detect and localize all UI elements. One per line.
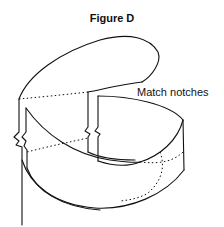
hidden-edge-back xyxy=(140,152,183,163)
left-inner-edge xyxy=(22,108,27,168)
paper-crown-diagram xyxy=(0,0,224,227)
right-band-edge xyxy=(183,120,184,170)
center-notched-edge xyxy=(85,92,90,152)
center-notched-edge-2 xyxy=(95,96,100,161)
inner-wall-top xyxy=(98,96,183,120)
upper-rim xyxy=(88,82,142,92)
hidden-edge-top xyxy=(19,92,88,99)
outer-bottom-band xyxy=(22,160,184,208)
outer-bottom-band-2 xyxy=(27,168,100,210)
inner-sweep xyxy=(26,108,140,162)
left-notched-edge xyxy=(14,99,22,225)
match-notches-label: Match notches xyxy=(137,86,209,98)
hidden-edge-middle xyxy=(27,138,88,152)
inner-floor-edge xyxy=(88,152,135,160)
